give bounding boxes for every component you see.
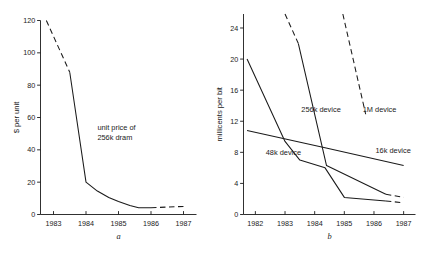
series-line-256k-device: [285, 14, 298, 44]
y-axis-tick-labels: 04812162024: [230, 24, 238, 220]
panel-a-series-lines: [46, 21, 183, 208]
y-tick-label: 20: [230, 55, 238, 64]
series-line-48k-device: [386, 201, 404, 203]
x-axis-ticks: [255, 211, 403, 214]
y-tick-label: 0: [234, 210, 238, 219]
series-line-256k-device: [386, 194, 404, 197]
panel-b-axes: [244, 14, 416, 215]
y-axis-ticks: [37, 21, 40, 215]
annotation-line-2: 256k dram: [97, 133, 132, 142]
y-tick-label: 120: [23, 16, 35, 25]
series-label-256k-device: 256k device: [301, 105, 340, 114]
y-tick-label: 4: [234, 179, 238, 188]
figure-container: 020406080100120 19831984198519861987 $ p…: [0, 0, 442, 258]
x-tick-label: 1984: [78, 219, 94, 228]
y-tick-label: 8: [234, 148, 238, 157]
panel-b-series-labels: 48k device16k device256k device1M device: [266, 105, 411, 158]
x-axis-tick-labels: 198219831984198519861987: [247, 219, 411, 228]
y-tick-label: 60: [27, 113, 35, 122]
y-tick-label: 20: [27, 178, 35, 187]
unit-price-annotation: unit price of 256k dram: [97, 123, 136, 141]
y-tick-label: 12: [230, 117, 238, 126]
two-panel-line-chart: 020406080100120 19831984198519861987 $ p…: [0, 0, 442, 258]
x-axis-tick-labels: 19831984198519861987: [46, 219, 192, 228]
series-line-1m-device: [343, 14, 366, 114]
x-tick-label: 1983: [46, 219, 62, 228]
series-label-1m-device: 1M device: [363, 105, 397, 114]
y-axis-ticks: [240, 28, 243, 215]
x-tick-label: 1985: [336, 219, 352, 228]
panel-a-letter: a: [116, 232, 120, 241]
x-tick-label: 1982: [247, 219, 263, 228]
series-line-256k-device: [298, 44, 385, 195]
panel-a: 020406080100120 19831984198519861987 $ p…: [12, 16, 197, 240]
x-tick-label: 1984: [307, 219, 323, 228]
x-axis-ticks: [54, 211, 184, 214]
x-tick-label: 1985: [111, 219, 127, 228]
x-tick-label: 1986: [143, 219, 159, 228]
y-tick-label: 24: [230, 24, 238, 33]
panel-b: 04812162024 198219831984198519861987 mil…: [215, 14, 416, 241]
y-tick-label: 16: [230, 86, 238, 95]
y-axis-tick-labels: 020406080100120: [23, 16, 35, 219]
panel-b-letter: b: [327, 232, 331, 241]
series-line-unit-price-of-256k-dram: [46, 21, 69, 73]
y-tick-label: 100: [23, 48, 35, 57]
panel-a-axes: [41, 21, 197, 215]
y-axis-title: $ per unit: [12, 101, 21, 134]
y-tick-label: 0: [31, 210, 35, 219]
x-tick-label: 1983: [277, 219, 293, 228]
annotation-line-1: unit price of: [97, 123, 136, 132]
series-label-48k-device: 48k device: [266, 148, 301, 157]
series-line-48k-device: [247, 59, 386, 201]
x-tick-label: 1986: [366, 219, 382, 228]
x-tick-label: 1987: [176, 219, 192, 228]
x-tick-label: 1987: [396, 219, 412, 228]
series-line-unit-price-of-256k-dram: [151, 206, 184, 207]
y-tick-label: 40: [27, 145, 35, 154]
y-tick-label: 80: [27, 81, 35, 90]
series-label-16k-device: 16k device: [375, 146, 410, 155]
y-axis-title: millicents per bit: [215, 86, 224, 141]
